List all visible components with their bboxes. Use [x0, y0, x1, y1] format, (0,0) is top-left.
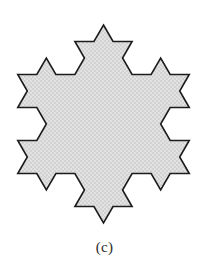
- figure-caption: (c): [0, 237, 209, 257]
- figure-panel: (c): [0, 0, 209, 264]
- koch-snowflake-figure: [0, 0, 209, 238]
